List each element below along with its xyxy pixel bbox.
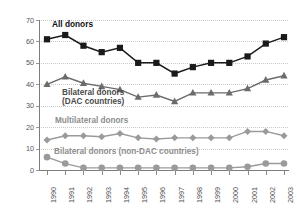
data-point <box>44 154 51 161</box>
data-point <box>135 60 141 66</box>
data-point <box>226 134 233 141</box>
data-point <box>62 132 69 139</box>
data-point <box>98 165 105 172</box>
data-point <box>80 43 86 49</box>
data-point <box>189 134 196 141</box>
data-point <box>62 160 69 167</box>
series-label-bilateral-nondac: Bilateral donors (non-DAC countries) <box>54 147 199 156</box>
data-point <box>153 135 160 142</box>
plot-area <box>0 0 297 208</box>
data-point <box>263 40 269 46</box>
data-point <box>172 70 178 76</box>
data-point <box>135 134 142 141</box>
data-point <box>190 165 197 172</box>
data-point <box>80 132 87 139</box>
series-square <box>44 32 287 77</box>
data-point <box>262 128 269 135</box>
data-point <box>171 165 178 172</box>
data-point <box>117 165 124 172</box>
data-point <box>135 165 142 172</box>
data-point <box>244 53 250 59</box>
data-point <box>190 64 196 70</box>
series-label-multilateral: Multilateral donors <box>55 116 128 125</box>
data-point <box>99 49 105 55</box>
data-point <box>98 133 105 140</box>
data-point <box>44 36 50 42</box>
series-label-bilateral-dac-line2: (DAC countries) <box>62 97 124 106</box>
data-point <box>281 34 287 40</box>
data-point <box>262 160 269 167</box>
data-point <box>44 137 51 144</box>
data-point <box>153 165 160 172</box>
data-point <box>171 134 178 141</box>
data-point <box>62 73 69 80</box>
data-point <box>208 134 215 141</box>
data-point <box>226 165 233 172</box>
data-point <box>80 165 87 172</box>
data-point <box>208 60 214 66</box>
data-point <box>116 130 123 137</box>
series-label-bilateral-dac-line1: Bilateral donors <box>62 88 124 97</box>
series-label-all-donors: All donors <box>52 20 93 29</box>
data-point <box>153 91 160 98</box>
data-point <box>244 128 251 135</box>
data-point <box>281 132 288 139</box>
series-diamond <box>44 128 288 144</box>
series-circle <box>44 154 288 171</box>
line-chart: Constant 2002 US$ billions 0102030405060… <box>0 0 297 208</box>
data-point <box>280 72 287 79</box>
data-point <box>226 60 232 66</box>
data-point <box>244 163 251 170</box>
data-point <box>153 60 159 66</box>
data-point <box>208 165 215 172</box>
data-point <box>62 32 68 38</box>
data-point <box>281 160 288 167</box>
data-point <box>117 45 123 51</box>
